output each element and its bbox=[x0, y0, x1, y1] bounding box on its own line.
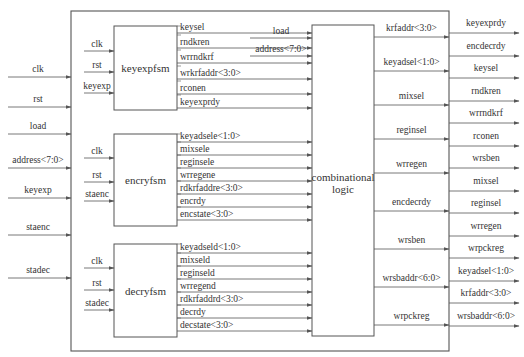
comb-logic-label: logic bbox=[332, 183, 354, 195]
fsm-output-label: rndkren bbox=[180, 37, 210, 47]
comb-direct-input-label: load bbox=[273, 26, 290, 36]
fsm-output-label: keysel bbox=[180, 22, 205, 32]
comb-output-label: wrsbaddr<6:0> bbox=[382, 273, 440, 283]
output-port-label: mixsel bbox=[473, 176, 499, 186]
external-input-port: clk bbox=[8, 64, 71, 77]
fsm-input-label: clk bbox=[91, 39, 103, 49]
fsm-output-label: keyadsele<1:0> bbox=[180, 131, 240, 141]
input-port-label: rst bbox=[33, 94, 43, 104]
block-combinational-logic: combinationallogicloadaddress<7:0>krfadd… bbox=[250, 23, 449, 336]
fsm-output-label: keyexprdy bbox=[180, 97, 220, 107]
comb-output-label: keyadsel<1:0> bbox=[383, 57, 439, 67]
external-output-port: reginsel bbox=[449, 198, 519, 213]
fsm-input-label: staenc bbox=[85, 189, 109, 199]
fsm-output-label: wrkrfaddr<3:0> bbox=[180, 68, 241, 78]
external-input-port: keyexp bbox=[8, 185, 71, 198]
output-port-label: keyadsel<1:0> bbox=[458, 266, 514, 276]
block-decryfsm: decryfsmclkrststadeckeyadseld<1:0>mixsel… bbox=[84, 242, 312, 337]
fsm-block-name: encryfsm bbox=[125, 174, 166, 186]
fsm-output-label: rconen bbox=[180, 83, 206, 93]
fsm-output-label: wrregene bbox=[180, 170, 215, 180]
fsm-output-label: decstate<3:0> bbox=[180, 320, 233, 330]
input-port-label: clk bbox=[32, 64, 44, 74]
fsm-output-label: reginsele bbox=[180, 157, 214, 167]
output-port-label: reginsel bbox=[471, 198, 501, 208]
output-port-label: keyexprdy bbox=[466, 18, 506, 28]
input-port-label: stadec bbox=[26, 265, 50, 275]
output-port-label: krfaddr<3:0> bbox=[461, 288, 512, 298]
comb-output-label: reginsel bbox=[396, 125, 426, 135]
fsm-input-label: rst bbox=[92, 170, 102, 180]
fsm-block-name: keyexpfsm bbox=[121, 62, 170, 74]
fsm-input-label: clk bbox=[91, 146, 103, 156]
external-input-port: address<7:0> bbox=[8, 155, 71, 168]
output-port-label: wrsben bbox=[472, 153, 500, 163]
external-output-port: wrrndkrf bbox=[449, 108, 519, 123]
fsm-block-name: decryfsm bbox=[125, 285, 166, 297]
fsm-output-label: keyadseld<1:0> bbox=[180, 242, 241, 252]
external-output-port: wrsbaddr<6:0> bbox=[449, 311, 519, 326]
fsm-output-label: rdkrfaddrd<3:0> bbox=[180, 294, 243, 304]
external-output-port: keysel bbox=[449, 63, 519, 78]
output-port-label: wrrndkrf bbox=[469, 108, 504, 118]
output-port-label: wrregen bbox=[470, 221, 501, 231]
input-port-label: address<7:0> bbox=[12, 155, 63, 165]
fsm-input-label: clk bbox=[91, 256, 103, 266]
fsm-output-label: rdkrfaddre<3:0> bbox=[180, 183, 243, 193]
external-output-port: rconen bbox=[449, 131, 519, 146]
external-input-port: rst bbox=[8, 94, 71, 107]
fsm-output-label: mixseld bbox=[180, 255, 210, 265]
comb-output-label: wrpckreg bbox=[394, 311, 430, 321]
output-port-label: wrpckreg bbox=[468, 243, 504, 253]
fsm-input-label: stadec bbox=[85, 298, 109, 308]
comb-output-label: krfaddr<3:0> bbox=[386, 23, 437, 33]
fsm-input-label: rst bbox=[92, 278, 102, 288]
input-port-label: load bbox=[30, 121, 47, 131]
external-input-port: load bbox=[8, 121, 71, 134]
fsm-output-label: wrrndkrf bbox=[180, 52, 215, 62]
external-output-port: keyadsel<1:0> bbox=[449, 266, 519, 281]
input-port-label: keyexp bbox=[24, 185, 52, 195]
external-output-port: krfaddr<3:0> bbox=[449, 288, 519, 303]
external-output-port: wrsben bbox=[449, 153, 519, 168]
fsm-output-label: reginseld bbox=[180, 268, 215, 278]
external-input-port: staenc bbox=[8, 222, 71, 235]
external-output-port: rndkren bbox=[449, 86, 519, 101]
comb-output-label: wrsben bbox=[398, 235, 426, 245]
fsm-output-label: decrdy bbox=[180, 307, 206, 317]
output-port-label: encdecrdy bbox=[466, 41, 505, 51]
fsm-output-label: mixsele bbox=[180, 144, 210, 154]
input-port-label: staenc bbox=[26, 222, 50, 232]
comb-direct-input-label: address<7:0> bbox=[255, 44, 306, 54]
external-output-port: keyexprdy bbox=[449, 18, 519, 33]
external-output-port: wrpckreg bbox=[449, 243, 519, 258]
fsm-output-label: encrdy bbox=[180, 196, 206, 206]
fsm-output-label: encstate<3:0> bbox=[180, 209, 233, 219]
output-port-label: rndkren bbox=[471, 86, 501, 96]
comb-logic-label: combinational bbox=[312, 171, 375, 183]
external-output-port: wrregen bbox=[449, 221, 519, 236]
comb-output-label: mixsel bbox=[399, 91, 425, 101]
comb-output-label: encdecrdy bbox=[392, 197, 431, 207]
external-output-port: encdecrdy bbox=[449, 41, 519, 56]
block-diagram: clkrstloadaddress<7:0>keyexpstaencstadec… bbox=[0, 0, 524, 357]
fsm-output-label: wrregend bbox=[180, 281, 216, 291]
external-output-port: mixsel bbox=[449, 176, 519, 191]
output-port-label: rconen bbox=[473, 131, 499, 141]
output-port-label: wrsbaddr<6:0> bbox=[457, 311, 515, 321]
fsm-input-label: rst bbox=[92, 60, 102, 70]
comb-output-label: wrregen bbox=[396, 159, 427, 169]
output-port-label: keysel bbox=[474, 63, 499, 73]
external-input-port: stadec bbox=[8, 265, 71, 278]
fsm-input-label: keyexp bbox=[83, 81, 111, 91]
block-encryfsm: encryfsmclkrststaenckeyadsele<1:0>mixsel… bbox=[84, 131, 312, 226]
